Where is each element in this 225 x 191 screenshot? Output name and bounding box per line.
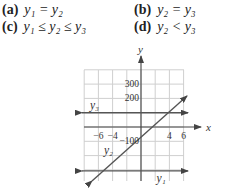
graph: xy y₃y₂y₁ −6−446300200−100 [0,0,225,191]
y-tick-label: −100 [119,136,139,146]
x-tick-label: −6 [93,131,103,141]
x-tick-label: −4 [108,131,118,141]
line-label-y2: y₂ [103,144,113,157]
y-axis-label: y [137,43,143,55]
x-tick-label: 4 [167,131,172,141]
line-y2 [92,96,187,181]
x-axis-label: x [205,121,211,133]
y-tick-label: 200 [125,93,140,103]
x-tick-label: 6 [181,131,186,141]
y-tick-label: 300 [125,79,140,89]
line-label-y1: y₁ [156,172,166,185]
line-label-y3: y₃ [89,99,99,112]
